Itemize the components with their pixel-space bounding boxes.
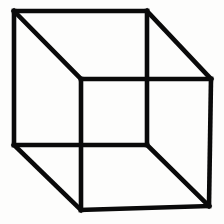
edge-connector-bottom-left xyxy=(14,145,81,210)
edge-connector-top-right xyxy=(147,11,211,79)
connector-edges-group xyxy=(14,11,211,210)
figure-canvas: Necker cube ambiguous line drawing optic… xyxy=(0,0,224,224)
edge-connector-top-left xyxy=(14,11,81,79)
edge-front-face-right xyxy=(209,79,211,206)
edge-connector-bottom-right xyxy=(147,145,209,206)
necker-cube-figure xyxy=(0,0,224,224)
edge-front-face-bottom xyxy=(81,206,209,210)
